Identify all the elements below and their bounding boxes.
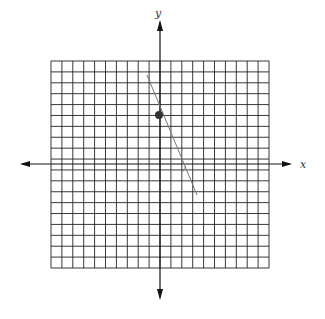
y-axis-down-arrow-icon	[157, 289, 163, 300]
x-axis-left-arrow-icon	[20, 161, 30, 167]
axes: x y	[20, 7, 307, 300]
plotted-point	[155, 111, 163, 119]
y-axis-up-arrow-icon	[157, 20, 163, 31]
graphed-line	[147, 75, 197, 195]
coordinate-plane: x y /	[0, 0, 325, 319]
x-axis-label: x	[300, 158, 307, 171]
x-axis-right-arrow-icon	[282, 161, 292, 167]
y-axis-label: y	[154, 7, 162, 20]
